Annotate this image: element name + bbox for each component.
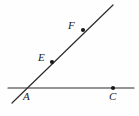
point-label-C: C	[109, 91, 116, 102]
point-dot-F	[81, 28, 85, 32]
point-label-E: E	[38, 52, 45, 63]
geometry-figure: A E F C	[0, 0, 139, 116]
point-label-F: F	[68, 20, 75, 31]
point-dot-E	[50, 60, 54, 64]
point-label-A: A	[23, 91, 30, 102]
figure-canvas	[0, 0, 139, 116]
